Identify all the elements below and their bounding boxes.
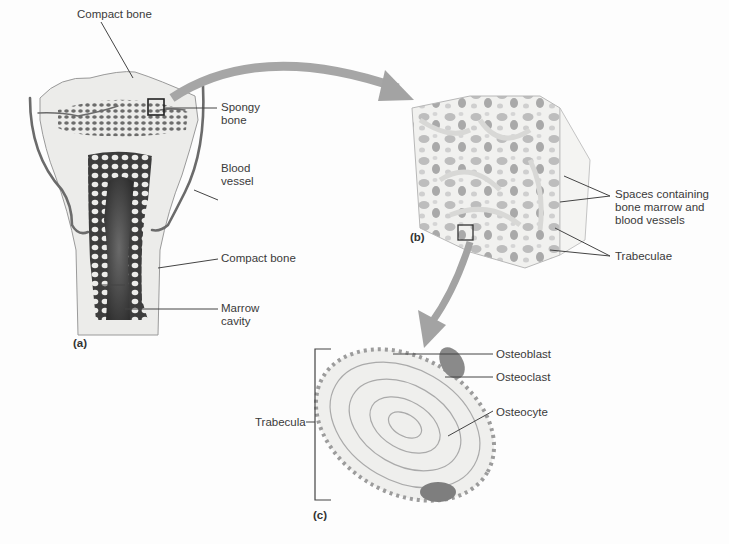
label-blood-vessel-line1: Blood <box>221 162 250 176</box>
bone-structure-figure: Compact bone Spongy bone Blood vessel Co… <box>0 0 729 544</box>
panel-label-c: (c) <box>313 509 327 521</box>
label-blood-vessel-line2: vessel <box>221 175 254 189</box>
label-spongy-bone-line2: bone <box>221 114 247 128</box>
label-compact-bone-mid: Compact bone <box>221 252 296 266</box>
label-marrow-cavity-line2: cavity <box>221 315 250 329</box>
label-trabecula: Trabecula <box>255 416 306 430</box>
arrow-a-to-b <box>172 66 398 98</box>
label-osteoclast: Osteoclast <box>496 371 550 385</box>
arrow-b-to-c-head <box>418 310 446 348</box>
label-spongy-bone-line1: Spongy <box>221 101 260 115</box>
long-bone <box>40 72 198 335</box>
label-osteocyte: Osteocyte <box>496 406 548 420</box>
label-spaces-line3: blood vessels <box>615 214 685 228</box>
illustration <box>0 0 729 544</box>
arrow-a-to-b-head <box>378 70 414 101</box>
label-compact-bone-top: Compact bone <box>77 8 152 22</box>
osteoclast-cell-lower <box>420 482 456 502</box>
label-trabeculae: Trabeculae <box>615 250 672 264</box>
panel-label-a: (a) <box>73 337 87 349</box>
arrow-b-to-c <box>432 242 470 322</box>
spongy-bone-block <box>412 96 590 268</box>
label-marrow-cavity-line1: Marrow <box>221 302 259 316</box>
label-spaces-line2: bone marrow and <box>615 201 705 215</box>
panel-label-b: (b) <box>410 231 425 243</box>
label-osteoblast: Osteoblast <box>496 348 551 362</box>
label-spaces-line1: Spaces containing <box>615 188 709 202</box>
